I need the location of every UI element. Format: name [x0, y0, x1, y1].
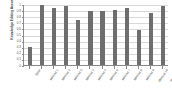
x-axis-tick-labels: BaseMethod 1Method 2Method 3Method 4Meth… [23, 69, 172, 107]
x-tick-label: Method 4 [85, 69, 95, 82]
bar [161, 6, 165, 65]
y-tick-label: 0.3 [8, 46, 21, 49]
y-tick-mark [22, 29, 24, 30]
y-tick-mark [22, 11, 24, 12]
y-tick-mark [22, 54, 24, 55]
y-tick-label: 0.6 [8, 28, 21, 31]
y-tick-label: 0.1 [8, 58, 21, 61]
bar [100, 11, 104, 65]
x-tick-label: Method 6 [110, 69, 120, 82]
y-tick-mark [22, 36, 24, 37]
bar [125, 8, 129, 65]
x-tick-label: Method 11 [171, 69, 172, 83]
y-tick-label: 1 [8, 4, 21, 7]
y-tick-label: 0.8 [8, 16, 21, 19]
bar [64, 6, 68, 65]
x-tick-label: Method 2 [61, 69, 71, 82]
y-axis-tick-labels: 10.90.80.70.60.50.40.30.20.10 [8, 4, 21, 66]
bar [137, 30, 141, 65]
y-tick-mark [22, 17, 24, 18]
bar [88, 11, 92, 65]
y-tick-label: 0 [8, 65, 21, 68]
y-tick-mark [22, 5, 24, 6]
y-tick-label: 0.9 [8, 10, 21, 13]
x-tick-label: Method 1 [49, 69, 59, 82]
y-tick-label: 0.4 [8, 40, 21, 43]
bar [149, 13, 153, 65]
bar [52, 8, 56, 65]
y-tick-mark [22, 60, 24, 61]
x-tick-label: Method 3 [73, 69, 83, 82]
x-tick-label: Base [35, 69, 42, 77]
y-tick-label: 0.2 [8, 52, 21, 55]
x-tick-label: Method 10 [159, 69, 170, 83]
bar-chart: Knowledge Editing Accuracy 10.90.80.70.6… [0, 0, 172, 108]
bar [40, 5, 44, 65]
x-tick-label: Method 7 [122, 69, 132, 82]
x-tick-label: Method 9 [146, 69, 156, 82]
y-tick-mark [22, 23, 24, 24]
y-tick-label: 0.7 [8, 22, 21, 25]
bar [113, 10, 117, 65]
bar [76, 20, 80, 65]
plot-area [23, 5, 168, 66]
y-tick-label: 0.5 [8, 34, 21, 37]
bar [28, 47, 32, 65]
bars-group [24, 5, 168, 65]
y-tick-mark [22, 48, 24, 49]
x-tick-label: Method 5 [97, 69, 107, 82]
y-tick-mark [22, 42, 24, 43]
x-tick-label: Method 8 [134, 69, 144, 82]
